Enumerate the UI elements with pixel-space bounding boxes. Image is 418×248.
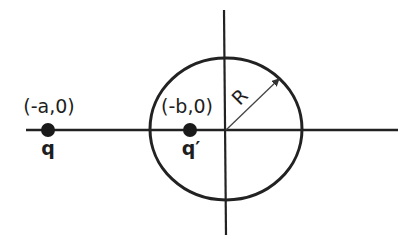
- charge-q-dot: [41, 123, 55, 137]
- image-charge-dot: [183, 123, 197, 137]
- image-charge-diagram: R (-a,0) q (-b,0) q′: [0, 0, 418, 248]
- charge-q-label: q: [41, 137, 55, 159]
- image-charge-position-label: (-b,0): [161, 95, 213, 117]
- radius-label: R: [227, 84, 252, 109]
- charge-q-position-label: (-a,0): [23, 95, 74, 117]
- image-charge-label: q′: [182, 137, 201, 159]
